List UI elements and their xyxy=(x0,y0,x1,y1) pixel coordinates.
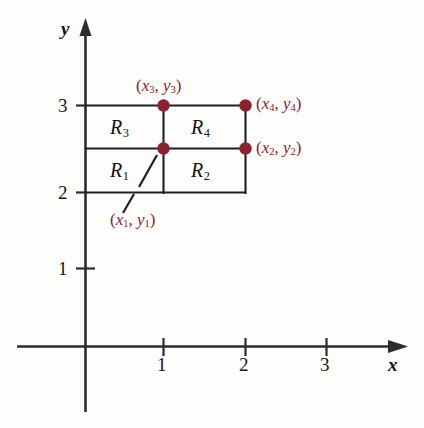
region-label-r4-subscript: 4 xyxy=(203,126,210,140)
point-label-x1y1-close: ) xyxy=(150,210,156,229)
x-axis-label: x xyxy=(388,355,398,374)
x-axis-arrowhead xyxy=(388,340,408,353)
point-label-x2y2: (x2, y2) xyxy=(256,139,301,158)
point-label-x4y4: (x4, y4) xyxy=(256,95,301,114)
region-label-r3-letter: R xyxy=(110,116,122,138)
point-label-x2y2-close: ) xyxy=(296,138,302,157)
point-label-x3y3-close: ) xyxy=(176,76,182,95)
y-axis-arrowhead xyxy=(80,18,92,36)
region-label-r4-letter: R xyxy=(191,116,203,138)
leader-line-segment-upper xyxy=(139,155,157,187)
point-label-x2y2-sep: , xyxy=(274,138,283,157)
region-label-r2-subscript: 2 xyxy=(203,169,210,183)
region-label-r2-letter: R xyxy=(191,159,203,181)
diagram-vector-layer xyxy=(0,0,424,428)
point-x3y3 xyxy=(157,99,169,111)
x-tick-label-3: 3 xyxy=(320,355,330,374)
x-tick-label-2: 2 xyxy=(239,355,249,374)
x-tick-label-1: 1 xyxy=(157,355,167,374)
point-x4y4 xyxy=(239,99,251,111)
region-label-r3: R3 xyxy=(110,117,129,139)
y-tick-label-1: 1 xyxy=(58,259,68,278)
y-axis-label: y xyxy=(61,19,69,38)
point-x2y2 xyxy=(239,142,251,154)
point-label-x4y4-yvar: y xyxy=(283,94,291,113)
point-label-x1y1: (x1, y1) xyxy=(110,211,155,230)
region-label-r4: R4 xyxy=(191,117,210,139)
point-label-x3y3-yvar: y xyxy=(163,76,171,95)
point-x1y1 xyxy=(157,142,169,154)
point-label-x4y4-close: ) xyxy=(296,94,302,113)
figure-canvas: y x 1 2 3 1 2 3 R3 R4 R1 R2 (x3, y3) (x4… xyxy=(0,0,424,428)
point-label-x3y3-sep: , xyxy=(154,76,163,95)
region-label-r3-subscript: 3 xyxy=(122,126,129,140)
y-tick-label-3: 3 xyxy=(58,96,68,115)
point-label-x2y2-yvar: y xyxy=(283,138,291,157)
y-tick-label-2: 2 xyxy=(58,183,68,202)
region-label-r2: R2 xyxy=(191,160,210,182)
point-label-x1y1-sep: , xyxy=(128,210,137,229)
region-label-r1-letter: R xyxy=(110,159,122,181)
region-label-r1: R1 xyxy=(110,160,129,182)
point-label-x4y4-sep: , xyxy=(274,94,283,113)
point-label-x1y1-yvar: y xyxy=(137,210,145,229)
point-label-x3y3: (x3, y3) xyxy=(136,77,181,96)
region-label-r1-subscript: 1 xyxy=(122,169,129,183)
